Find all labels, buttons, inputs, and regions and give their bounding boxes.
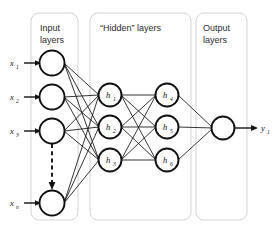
hidden-node-h4-base: h: [163, 90, 167, 100]
hidden-node-h5[interactable]: h 5: [156, 116, 179, 139]
input-node-x1[interactable]: [40, 51, 65, 76]
input-layer-title-line1: Input: [40, 23, 61, 33]
input-layer-title-line2: layers: [40, 35, 65, 45]
hidden-node-h3-subscript: 3: [112, 161, 116, 167]
input-node-xn[interactable]: [40, 191, 65, 216]
input-node-x2[interactable]: [40, 85, 65, 110]
hidden-node-h4-subscript: 4: [170, 96, 173, 102]
input-label-x3-subscript: 3: [15, 132, 19, 138]
hidden-node-h2-subscript: 2: [113, 128, 116, 134]
hidden-node-h1[interactable]: h 1: [99, 84, 122, 107]
output-label-y1: y 1: [260, 123, 270, 135]
output-node-y1[interactable]: [212, 117, 235, 140]
output-layer-title-line1: Output: [203, 23, 231, 33]
hidden-node-h5-base: h: [163, 122, 167, 132]
diagram-canvas: Input layers “Hidden” layers Output laye…: [0, 0, 276, 235]
input-label-xn: x n: [9, 198, 19, 210]
hidden-layer-title: “Hidden” layers: [100, 23, 162, 33]
hidden-node-h2[interactable]: h 2: [99, 116, 122, 139]
input-label-x2-subscript: 2: [16, 98, 19, 104]
input-node-x3[interactable]: [40, 119, 65, 144]
hidden-node-h1-base: h: [106, 90, 110, 100]
output-layer-title-line2: layers: [203, 35, 228, 45]
hidden-node-h6-subscript: 6: [170, 161, 173, 167]
input-label-x3: x 3: [9, 126, 19, 138]
hidden-node-h2-base: h: [106, 122, 110, 132]
input-label-x1: x 1: [9, 58, 19, 70]
output-label-y1-base: y: [260, 123, 265, 133]
input-label-x1-base: x: [9, 58, 14, 68]
neural-network-diagram: Input layers “Hidden” layers Output laye…: [0, 0, 276, 235]
input-label-x1-subscript: 1: [16, 64, 19, 70]
output-label-y1-subscript: 1: [267, 129, 270, 135]
hidden-node-h6[interactable]: h 6: [156, 149, 179, 172]
hidden-node-h6-base: h: [163, 155, 167, 165]
hidden-node-h3-base: h: [106, 155, 110, 165]
input-label-xn-subscript: n: [16, 204, 19, 210]
hidden-node-h4[interactable]: h 4: [156, 84, 179, 107]
hidden-node-h3[interactable]: h 3: [99, 149, 122, 172]
input-label-xn-base: x: [9, 198, 14, 208]
input-label-x2: x 2: [9, 92, 19, 104]
input-label-x2-base: x: [9, 92, 14, 102]
hidden-node-h5-subscript: 5: [170, 128, 173, 134]
hidden-node-h1-subscript: 1: [113, 96, 116, 102]
input-label-x3-base: x: [9, 126, 14, 136]
